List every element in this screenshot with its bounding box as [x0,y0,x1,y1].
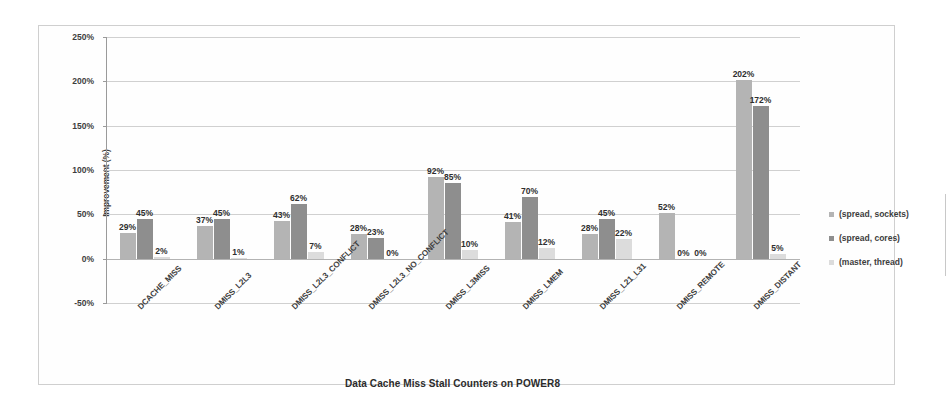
y-tick-label: 250% [34,32,94,42]
bar [539,248,555,259]
bar-value-label: 5% [755,243,801,253]
bar-group: 41%70%12% [491,37,568,303]
bar-value-label: 70% [507,186,553,196]
bar [462,250,478,259]
bar-value-label: 7% [293,241,339,251]
bar [274,221,290,259]
legend-label: (master, thread) [839,257,903,267]
bar [231,258,247,259]
bar [599,219,615,259]
bar-value-label: 10% [447,239,493,249]
bar-value-label: 22% [601,228,647,238]
bar-value-label: 2% [139,246,185,256]
bar-group: 52%0%0% [645,37,722,303]
legend-label: (spread, cores) [839,233,900,243]
legend-swatch-icon [829,260,834,265]
bar-value-label: 23% [353,227,399,237]
bar [753,106,769,259]
plot-area: 250%200%150%100%50%0%-50% 29%45%2%37%45%… [106,37,799,308]
bars-layer: 29%45%2%37%45%1%43%62%7%28%23%0%92%85%10… [106,37,799,303]
chart-frame: Improvement (%) 250%200%150%100%50%0%-50… [38,25,895,385]
bar-value-label: 0% [370,248,416,258]
y-tick-label: 100% [34,165,94,175]
bar [736,80,752,259]
bar-value-label: 62% [276,193,322,203]
bar-value-label: 0% [678,248,724,258]
legend-item: (spread, cores) [829,226,950,250]
bar-group: 37%45%1% [183,37,260,303]
bar-value-label: 12% [524,237,570,247]
bar-value-label: 45% [199,208,245,218]
legend-swatch-icon [829,212,834,217]
bar-value-label: 1% [216,247,262,257]
bar-group: 29%45%2% [106,37,183,303]
legend-item: (spread, sockets) [829,202,950,226]
bar [770,254,786,258]
y-tick-label: 0% [34,254,94,264]
bar [522,197,538,259]
bar-value-label: 202% [721,69,767,79]
y-tick-label: 50% [34,209,94,219]
chart-legend: (spread, sockets)(spread, cores)(master,… [829,202,950,274]
bar-value-label: 52% [644,202,690,212]
y-tick-label: -50% [34,298,94,308]
bar [154,257,170,259]
bar-value-label: 172% [738,95,784,105]
legend-swatch-icon [829,236,834,241]
bar [582,234,598,259]
bar-group: 28%45%22% [568,37,645,303]
y-tick-label: 150% [34,121,94,131]
bar-value-label: 45% [122,208,168,218]
bar [120,233,136,259]
legend-divider [945,194,946,276]
y-tick-mark [103,303,107,304]
bar [308,252,324,258]
bar-value-label: 85% [430,172,476,182]
bar-group: 92%85%10% [414,37,491,303]
bar-group: 43%62%7% [260,37,337,303]
legend-label: (spread, sockets) [839,209,909,219]
chart-title: Data Cache Miss Stall Counters on POWER8 [106,378,799,389]
bar [616,239,632,259]
bar-group: 202%172%5% [722,37,799,303]
bar-value-label: 45% [584,208,630,218]
bar [505,222,521,258]
bar-group: 28%23%0% [337,37,414,303]
legend-item: (master, thread) [829,250,950,274]
y-tick-label: 200% [34,76,94,86]
bar [197,226,213,259]
